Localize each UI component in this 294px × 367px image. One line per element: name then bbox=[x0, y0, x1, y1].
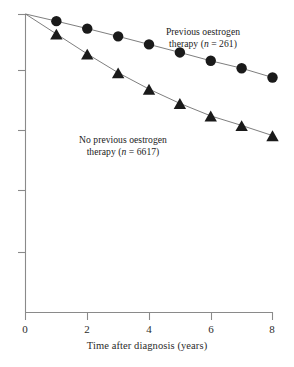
data-point-triangle-8 bbox=[266, 130, 278, 141]
data-point-triangle-3 bbox=[112, 67, 124, 78]
x-axis-title: Time after diagnosis (years) bbox=[0, 340, 294, 351]
x-tick-label-8: 8 bbox=[262, 323, 282, 335]
data-point-triangle-5 bbox=[174, 98, 186, 109]
data-point-triangle-4 bbox=[143, 84, 155, 95]
annotation-no-previous-line2-suffix: = 6617) bbox=[126, 146, 159, 157]
data-point-triangle-6 bbox=[205, 111, 217, 122]
y-axis-ticks bbox=[18, 15, 26, 253]
data-point-circle-6 bbox=[206, 56, 216, 66]
annotation-previous-line1: Previous oestrogen bbox=[151, 26, 255, 38]
data-point-triangle-1 bbox=[50, 29, 62, 40]
annotation-no-previous-line2: therapy (n = 6617) bbox=[61, 146, 185, 158]
chart-figure: 0 2 4 6 8 Time after diagnosis (years) P… bbox=[0, 0, 294, 367]
x-tick-label-0: 0 bbox=[15, 323, 35, 335]
annotation-previous-line2: therapy (n = 261) bbox=[151, 38, 255, 50]
data-point-circle-3 bbox=[113, 31, 123, 41]
annotation-previous-line2-prefix: therapy ( bbox=[169, 38, 204, 49]
data-point-triangle-7 bbox=[235, 120, 247, 131]
annotation-no-previous-oestrogen: No previous oestrogen therapy (n = 6617) bbox=[61, 134, 185, 158]
data-point-circle-1 bbox=[51, 16, 61, 26]
x-axis-ticks bbox=[26, 312, 273, 320]
x-tick-label-4: 4 bbox=[139, 323, 159, 335]
data-point-circle-7 bbox=[236, 63, 246, 73]
annotation-previous-oestrogen: Previous oestrogen therapy (n = 261) bbox=[151, 26, 255, 50]
chart-plot-area bbox=[0, 0, 294, 367]
annotation-no-previous-line1: No previous oestrogen bbox=[61, 134, 185, 146]
data-point-circle-8 bbox=[267, 72, 277, 82]
data-point-circle-2 bbox=[82, 23, 92, 33]
data-point-triangle-2 bbox=[81, 49, 93, 60]
annotation-no-previous-line2-prefix: therapy ( bbox=[87, 146, 122, 157]
annotation-previous-line2-suffix: = 261) bbox=[209, 38, 237, 49]
x-tick-label-2: 2 bbox=[77, 323, 97, 335]
x-tick-label-6: 6 bbox=[201, 323, 221, 335]
